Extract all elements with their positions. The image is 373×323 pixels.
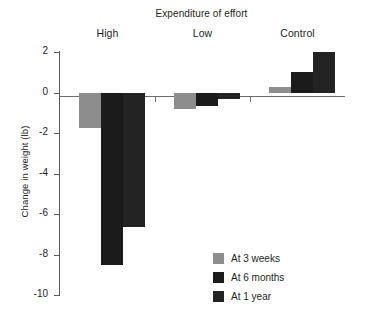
bar-high-at-6-months (101, 93, 123, 265)
legend-label: At 1 year (231, 291, 271, 302)
legend-item: At 6 months (213, 268, 284, 287)
y-tick-label: -6 (2, 207, 48, 218)
legend-label: At 6 months (231, 272, 284, 283)
y-tick-label: 2 (2, 45, 48, 56)
x-axis-group-label-high: High (60, 27, 155, 39)
bar-low-at-3-weeks (174, 93, 196, 109)
legend-swatch-icon (213, 253, 224, 264)
bar-high-at-3-weeks (79, 93, 101, 128)
bar-low-at-6-months (196, 93, 218, 106)
x-axis-group-label-low: Low (155, 27, 250, 39)
y-tick-label: -8 (2, 248, 48, 259)
bar-high-at-1-year (123, 93, 145, 228)
x-axis-group-label-control: Control (250, 27, 345, 39)
chart-legend: At 3 weeksAt 6 monthsAt 1 year (213, 249, 284, 306)
legend-item: At 1 year (213, 287, 284, 306)
legend-swatch-icon (213, 272, 224, 283)
legend-item: At 3 weeks (213, 249, 284, 268)
bar-chart-figure: Expenditure of effort Change in weight (… (0, 0, 373, 323)
bar-control-at-1-year (313, 52, 335, 93)
y-tick-label: -4 (2, 167, 48, 178)
y-axis-cap (55, 295, 60, 296)
bar-control-at-6-months (291, 72, 313, 92)
y-tick-label: 0 (2, 86, 48, 97)
bar-low-at-1-year (218, 93, 240, 99)
legend-swatch-icon (213, 291, 224, 302)
bar-control-at-3-weeks (269, 87, 291, 92)
legend-label: At 3 weeks (231, 253, 280, 264)
y-tick-label: -2 (2, 126, 48, 137)
chart-title: Expenditure of effort (0, 8, 373, 19)
y-tick-label: -10 (2, 288, 48, 299)
